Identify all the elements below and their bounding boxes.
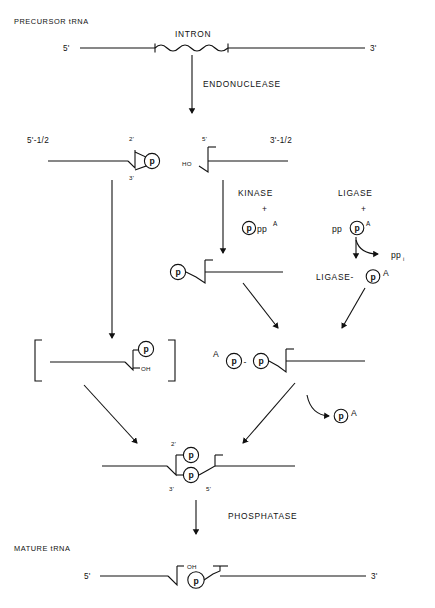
precursor-3prime-label: 3': [370, 44, 377, 53]
bracket-open-shape: [35, 340, 42, 381]
precursor-5prime-label: 5': [63, 44, 70, 53]
ligase-cofactor-pp: pp: [332, 224, 342, 234]
adenylylated-phosphate-2: p: [258, 356, 263, 366]
ligase-adduct-to-adenylylated-arrow: [342, 288, 365, 328]
bracket-to-ligated-arrow: [84, 385, 137, 443]
adenylylated-adenosine: A: [213, 349, 219, 359]
mature-phosphate: p: [193, 576, 198, 586]
pyrophosphate-release-arrow: [356, 240, 378, 254]
five-half-molecule: p: [48, 150, 160, 170]
five-half-3prime-label: 3': [129, 174, 134, 181]
pyrophosphate-label: pp: [391, 250, 401, 260]
mature-5prime-label: 5': [84, 572, 91, 581]
five-half-cyclic-phosphate: p: [149, 156, 154, 166]
ligated-product-molecule: p p: [102, 447, 295, 482]
ligase-adduct-phosphate: p: [370, 272, 375, 282]
released-ap-group: p A: [334, 408, 357, 423]
kinase-label: KINASE: [238, 188, 273, 198]
mature-3prime-label: 3': [371, 572, 378, 581]
released-ap-phosphate: p: [338, 411, 343, 421]
ligase-adduct-label: LIGASE-: [316, 272, 354, 282]
three-half-hydroxyl-label: HO: [182, 160, 192, 167]
bracket-close-shape: [168, 340, 175, 381]
kinase-cofactor-pp: pp: [257, 224, 267, 234]
ligase-plus: +: [361, 204, 367, 214]
figure-canvas: PRECURSOR tRNA 5' 3' INTRON ENDONUCLEASE…: [0, 0, 435, 608]
ligase-adenylate-adduct: LIGASE- p A: [316, 268, 389, 283]
mature-trna-molecule: OH p: [100, 563, 366, 588]
phosphorylated-half-molecule: p: [170, 260, 283, 283]
three-half-label: 3'-1/2: [270, 136, 292, 145]
ligase-cofactor-adenosine: A: [366, 220, 371, 227]
endonuclease-label: ENDONUCLEASE: [203, 79, 281, 89]
bracket-intermediate-hydroxyl: OH: [141, 365, 151, 372]
phosphorylated-to-adenylylated-arrow: [243, 283, 278, 328]
precursor-backbone: [80, 44, 365, 53]
adenylylated-dash: -: [244, 357, 247, 367]
mature-label: MATURE tRNA: [14, 544, 70, 553]
ligase-adduct-adenosine: A: [383, 268, 389, 278]
ap-release-arrow: [307, 395, 329, 416]
pyrophosphate-subscript: i: [403, 256, 404, 262]
phosphorylated-half-phosphate: p: [175, 267, 180, 277]
released-ap-adenosine: A: [351, 408, 357, 418]
kinase-plus: +: [262, 204, 268, 214]
kinase-cofactor-atp: p pp A: [242, 220, 278, 235]
ligated-phosphate-2prime: p: [188, 450, 193, 460]
ligase-cofactor-phosphate: p: [354, 223, 359, 233]
ligated-2prime-label: 2': [171, 440, 176, 447]
three-half-molecule: [199, 147, 288, 172]
pathway-diagram: PRECURSOR tRNA 5' 3' INTRON ENDONUCLEASE…: [0, 0, 435, 608]
adenylylated-half-molecule: A p - p: [213, 349, 365, 372]
five-half-2prime-label: 2': [129, 135, 134, 142]
kinase-cofactor-adenosine: A: [273, 220, 278, 227]
bracket-intermediate-molecule: p OH: [35, 340, 175, 381]
ligase-label: LIGASE: [338, 188, 372, 198]
ligated-5prime-label: 5': [206, 485, 211, 492]
three-half-5prime-label: 5': [202, 135, 207, 142]
ligated-3prime-label: 3': [169, 485, 174, 492]
adenylylated-phosphate-1: p: [231, 356, 236, 366]
precursor-label: PRECURSOR tRNA: [14, 17, 89, 26]
mature-hydroxyl-label: OH: [187, 563, 197, 570]
intron-label: INTRON: [175, 29, 211, 39]
intron-wavy-segment: [155, 45, 228, 51]
ligated-phosphate-3prime-5prime: p: [188, 470, 193, 480]
five-half-label: 5'-1/2: [27, 136, 49, 145]
ligase-cofactor-atp: pp p A: [332, 220, 371, 235]
adenylylated-to-ligated-arrow: [243, 383, 295, 443]
phosphatase-label: PHOSPHATASE: [228, 511, 297, 521]
bracket-intermediate-phosphate: p: [143, 344, 148, 354]
kinase-cofactor-phosphate: p: [246, 223, 251, 233]
